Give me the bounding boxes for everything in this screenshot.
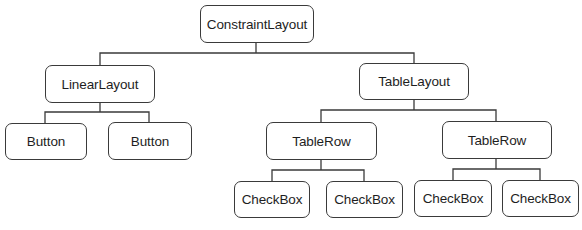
node-linearlayout: LinearLayout [45,65,155,103]
node-checkbox-3: CheckBox [414,180,492,217]
connector-tablerow-1-branch [272,170,364,181]
connector-tablerow-2-branch [453,169,540,180]
node-label: TableLayout [378,74,450,89]
node-label: CheckBox [423,191,484,206]
node-checkbox-4: CheckBox [502,180,579,217]
node-tablelayout: TableLayout [359,63,469,100]
node-label: Button [131,134,169,149]
node-button-1: Button [5,123,87,160]
node-label: CheckBox [242,192,303,207]
node-tablerow-1: TableRow [266,122,377,160]
node-label: CheckBox [334,192,395,207]
node-constraintlayout: ConstraintLayout [200,5,314,43]
node-label: ConstraintLayout [207,17,307,32]
node-label: TableRow [292,134,350,149]
node-tablerow-2: TableRow [442,121,552,159]
node-button-2: Button [108,122,192,160]
node-label: TableRow [468,133,526,148]
node-label: Button [27,134,65,149]
node-label: LinearLayout [62,77,139,92]
node-checkbox-1: CheckBox [234,181,310,218]
node-checkbox-2: CheckBox [326,181,403,218]
node-label: CheckBox [510,191,571,206]
